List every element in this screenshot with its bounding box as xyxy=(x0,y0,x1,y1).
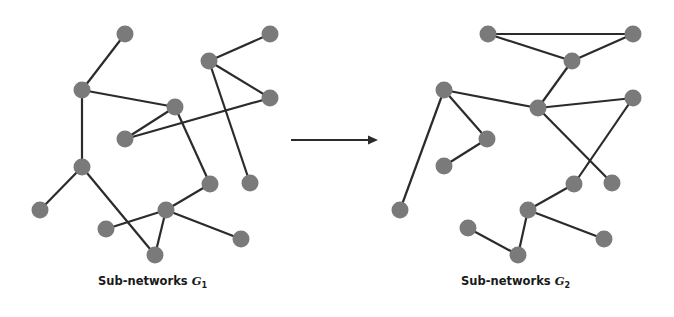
node-G2-m xyxy=(460,220,477,237)
edge-G2-e-f xyxy=(538,98,633,108)
node-G1-n4 xyxy=(201,53,218,70)
transform-arrow-icon xyxy=(291,136,378,145)
node-G2-j xyxy=(604,175,621,192)
caption-g2-var: G xyxy=(555,274,565,288)
edge-G1-n4-n2 xyxy=(209,34,270,61)
caption-g1-text: Sub-networks xyxy=(98,274,192,288)
node-G2-d xyxy=(436,82,453,99)
edge-G1-n12-n13 xyxy=(106,210,166,229)
edge-G2-c-e xyxy=(538,61,572,108)
caption-g2-text: Sub-networks xyxy=(461,274,555,288)
caption-g2: Sub-networks G2 xyxy=(461,274,570,290)
node-G1-n6 xyxy=(167,99,184,116)
node-G2-b xyxy=(625,26,642,43)
caption-g2-sub: 2 xyxy=(564,281,570,290)
edge-G1-n6-n7 xyxy=(125,107,175,139)
node-G1-n5 xyxy=(262,90,279,107)
caption-g1-var: G xyxy=(192,274,202,288)
node-G1-n13 xyxy=(98,221,115,238)
node-G1-n14 xyxy=(233,231,250,248)
node-G1-n3 xyxy=(74,82,91,99)
node-G1-n9 xyxy=(202,176,219,193)
g1-nodes xyxy=(32,26,279,264)
node-G1-n2 xyxy=(262,26,279,43)
edge-G1-n4-n10 xyxy=(209,61,250,183)
edge-G2-b-c xyxy=(572,34,633,61)
edge-G1-n1-n3 xyxy=(82,34,125,90)
network-diagram xyxy=(0,0,674,317)
node-G1-n12 xyxy=(158,202,175,219)
node-G1-n1 xyxy=(117,26,134,43)
node-G2-n xyxy=(596,231,613,248)
node-G2-k xyxy=(392,202,409,219)
g1-edges xyxy=(40,34,270,255)
edge-G2-f-i xyxy=(574,98,633,184)
edge-G2-m-o xyxy=(468,228,518,255)
edge-G2-d-k xyxy=(400,90,444,210)
edge-G1-n7-n5 xyxy=(125,98,270,139)
edge-G1-n8-n11 xyxy=(40,167,82,210)
caption-g1: Sub-networks G1 xyxy=(98,274,207,290)
node-G2-o xyxy=(510,247,527,264)
node-G2-g xyxy=(479,131,496,148)
edge-G1-n12-n14 xyxy=(166,210,241,239)
g2-edges xyxy=(400,34,633,255)
node-G2-c xyxy=(564,53,581,70)
node-G1-n11 xyxy=(32,202,49,219)
node-G2-l xyxy=(520,202,537,219)
node-G1-n15 xyxy=(147,247,164,264)
edge-G1-n4-n5 xyxy=(209,61,270,98)
node-G2-e xyxy=(530,100,547,117)
node-G2-i xyxy=(566,176,583,193)
node-G2-a xyxy=(480,26,497,43)
node-G1-n7 xyxy=(117,131,134,148)
arrow-head xyxy=(368,136,378,145)
caption-g1-sub: 1 xyxy=(201,281,207,290)
edge-G1-n8-n15 xyxy=(82,167,155,255)
edge-G1-n6-n9 xyxy=(175,107,210,184)
edge-G2-a-c xyxy=(488,34,572,61)
g2-nodes xyxy=(392,26,642,264)
node-G1-n8 xyxy=(74,159,91,176)
node-G1-n10 xyxy=(242,175,259,192)
edge-G2-l-n xyxy=(528,210,604,239)
edge-G1-n3-n6 xyxy=(82,90,175,107)
node-G2-h xyxy=(436,158,453,175)
node-G2-f xyxy=(625,90,642,107)
